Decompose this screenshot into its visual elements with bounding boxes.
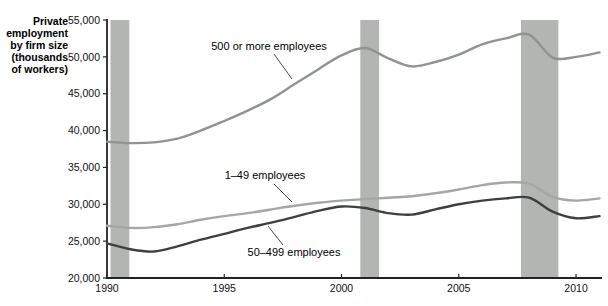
y-tick-label: 40,000 — [68, 124, 100, 136]
y-tick-label: 55,000 — [68, 14, 100, 26]
annotation-label-1-49: 1–49 employees — [225, 169, 306, 181]
annotation-label-50-499: 50–499 employees — [248, 246, 341, 258]
recession-band — [360, 20, 379, 278]
annotation-leader-line-50-499 — [268, 226, 283, 245]
y-tick-label: 45,000 — [68, 87, 100, 99]
x-tick-label: 1995 — [213, 282, 237, 294]
annotations-group: 500 or more employees 1–49 employees 50–… — [211, 40, 341, 258]
y-tick-label: 35,000 — [68, 161, 100, 173]
annotation-leader-line-1-49 — [274, 184, 292, 202]
x-tick-label: 2005 — [447, 282, 471, 294]
x-tick-label: 2010 — [564, 282, 588, 294]
recession-band — [111, 20, 130, 278]
y-tick-label: 50,000 — [68, 51, 100, 63]
y-tick-label: 30,000 — [68, 198, 100, 210]
private-employment-by-firm-size-chart: Private employment by firm size (thousan… — [0, 0, 608, 306]
annotation-leader-line-500-or-more — [274, 54, 292, 79]
x-tick-label: 2000 — [330, 282, 354, 294]
annotation-label-500-or-more: 500 or more employees — [211, 40, 327, 52]
y-tick-label: 25,000 — [68, 235, 100, 247]
chart-canvas: 20,00025,00030,00035,00040,00045,00050,0… — [0, 0, 608, 306]
x-tick-label: 1990 — [95, 282, 119, 294]
